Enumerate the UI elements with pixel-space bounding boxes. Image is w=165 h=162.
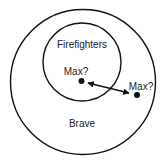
max-point-inner <box>79 78 85 84</box>
brave-label: Brave <box>69 119 95 129</box>
max-outer-label: Max? <box>129 82 153 92</box>
euler-diagram: Firefighters Max? Max? Brave <box>0 0 165 162</box>
firefighters-set-circle <box>43 23 121 101</box>
max-point-outer <box>134 92 140 98</box>
max-inner-label: Max? <box>64 67 88 77</box>
firefighters-label: Firefighters <box>57 40 107 50</box>
